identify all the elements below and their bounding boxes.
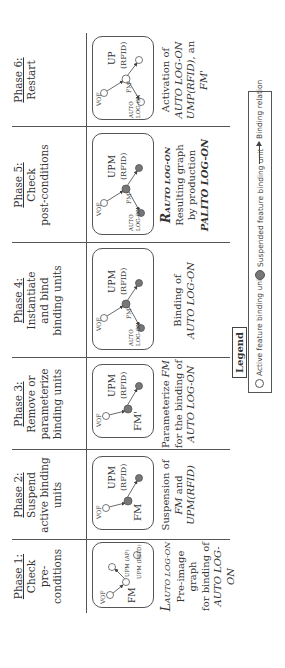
phase-1-desc-line: AUTO LOG-ON [212, 540, 237, 613]
phase-6-desc-ump: UMP(RFID) [185, 60, 196, 120]
phase-4-subtitle: binding units [51, 243, 64, 358]
phase-3-description: Parameterize FM for the binding of AUTO … [160, 358, 198, 450]
svg-text:LOG-ON: LOG-ON [135, 322, 141, 346]
arrow-icon [259, 142, 260, 164]
legend-title: Legend [232, 327, 247, 378]
phase-2-desc-and: and [173, 475, 184, 497]
phase-3-header: Phase 3: Remove or parameterize binding … [12, 358, 64, 450]
phase-1-title: Phase 1: [12, 540, 25, 613]
svg-text:VOF: VOF [95, 318, 102, 332]
phase-3-graph-svg: VOF FM' UPM (RFID) [93, 365, 153, 437]
svg-text:AUTO: AUTO [128, 101, 134, 119]
phase-5-symbol-subscript: AUTO LOG-ON [162, 147, 172, 213]
phase-1-graph-svg: VOF FM UPM (RFID) UPM (AP) [93, 543, 153, 607]
legend-item-binding: Binding relation [255, 80, 264, 164]
phase-3-desc-fm: FM [160, 360, 171, 377]
phase-2-graph: VOF FM UPM (RFID) [92, 456, 154, 530]
svg-text:VOF: VOF [95, 93, 102, 107]
svg-text:VOF: VOF [95, 203, 102, 217]
active-node-icon [255, 379, 264, 388]
suspended-node-icon [136, 165, 143, 172]
phase-2-desc-fm: FM [173, 497, 184, 514]
phase-6-desc-an: , an [185, 41, 196, 60]
active-node-icon [107, 592, 114, 599]
phase-6-header: Phase 6: Restart [12, 33, 38, 127]
phase-2-subtitle: active binding [38, 450, 51, 540]
binding-phases-diagram: Phase 1: Check pre-conditions Phase 2: S… [0, 0, 285, 668]
phase-3-desc-plain: Parameterize [160, 377, 171, 448]
phase-5-graph-svg: VOF FM' UPM (RFID) AUTO LOG-ON [93, 134, 153, 234]
svg-text:UPM: UPM [107, 155, 117, 178]
svg-text:VOF: VOF [95, 506, 102, 520]
phase-4-graph: VOF FM' UPM (RFID) AUTO LOG-ON [92, 248, 154, 350]
phase-5-header: Phase 5: Check post-conditions [12, 127, 51, 243]
phase-6-graph: VOF FM' UP (RFID) AUTO LOG-ON [92, 36, 154, 120]
phase-2-desc-line: Suspension of [160, 450, 173, 540]
svg-text:UP: UP [107, 51, 117, 65]
svg-text:LOG-ON: LOG-ON [135, 207, 141, 231]
svg-text:FM': FM' [125, 307, 132, 319]
svg-text:FM': FM' [132, 411, 143, 431]
suspended-node-icon [136, 475, 143, 482]
suspended-node-icon [136, 383, 143, 390]
phase-1-header: Phase 1: Check pre-conditions [12, 540, 64, 613]
svg-text:VOF: VOF [99, 591, 106, 605]
phase-4-description: Binding of AUTO LOG-ON [172, 243, 197, 358]
phase-2-header: Phase 2: Suspend active binding units [12, 450, 64, 540]
svg-text:AUTO: AUTO [128, 214, 134, 232]
phase-5-desc-line: PALITO LOG-ON [199, 127, 212, 243]
phase-1-graph: VOF FM UPM (RFID) UPM (AP) [92, 542, 154, 608]
suspended-node-icon [136, 280, 143, 287]
svg-text:UPM: UPM [107, 466, 117, 489]
phase-5-description: RAUTO LOG-ON Resulting graph by producti… [160, 127, 211, 243]
legend-item-suspended: Suspended feature binding unit [255, 149, 265, 280]
legend-label: Binding relation [255, 80, 264, 139]
phase-5-graph: VOF FM' UPM (RFID) AUTO LOG-ON [92, 133, 154, 235]
active-node-icon [136, 57, 143, 64]
svg-text:(RFID): (RFID) [119, 42, 128, 69]
legend-label: Active feature binding unit [255, 276, 264, 376]
phase-2-desc-line: UPM(RFID) [185, 450, 198, 540]
phase-4-graph-svg: VOF FM' UPM (RFID) AUTO LOG-ON [93, 249, 153, 349]
phase-6-desc-line: AUTO LOG-ON [173, 33, 186, 127]
legend: Active feature binding unit Suspended fe… [248, 91, 272, 393]
phase-5-desc-line: Resulting graph [174, 127, 187, 243]
svg-text:UPM (RFID): UPM (RFID) [136, 544, 142, 579]
svg-text:(RFID): (RFID) [119, 268, 128, 295]
phase-2-subtitle: Suspend [25, 450, 38, 540]
phase-3-desc-line: AUTO LOG-ON [185, 358, 198, 450]
phase-3-desc-line: for the binding of [173, 358, 186, 450]
phase-6-graph-svg: VOF FM' UP (RFID) AUTO LOG-ON [93, 37, 153, 119]
suspended-node-icon [124, 497, 132, 505]
phase-5-subtitle: post-conditions [38, 127, 51, 243]
phase-5-symbol: R [159, 213, 173, 223]
active-node-icon [103, 505, 110, 512]
phase-6-desc-line: Activation of [160, 33, 173, 127]
suspended-node-icon [124, 405, 132, 413]
phase-6-description: Activation of AUTO LOG-ON UMP(RFID), an … [160, 33, 210, 127]
phase-2-description: Suspension of FM and UPM(RFID) [160, 450, 198, 540]
header-divider [86, 33, 87, 613]
active-node-icon [123, 579, 130, 586]
phase-5-desc-line: by production [186, 127, 199, 243]
phase-1-subtitle: pre-conditions [38, 540, 64, 613]
phase-4-title: Phase 4: [12, 243, 25, 358]
svg-text:FM: FM [127, 588, 137, 603]
svg-text:FM': FM' [125, 192, 132, 204]
phase-2-graph-svg: VOF FM UPM (RFID) [93, 457, 153, 529]
svg-text:FM: FM [132, 504, 143, 521]
suspended-node-icon [255, 270, 265, 280]
phase-4-desc-line: Binding of [172, 243, 185, 358]
phase-5-subtitle: Check [25, 127, 38, 243]
svg-text:UPM: UPM [107, 374, 117, 397]
svg-text:LOG-ON: LOG-ON [135, 94, 141, 118]
phase-1-desc-line: Pre-image graph [175, 540, 200, 613]
phase-3-title: Phase 3: [12, 358, 25, 450]
svg-text:AUTO: AUTO [128, 329, 134, 347]
phase-1-symbol-subscript: AUTO LOG-ON [163, 542, 172, 604]
phase-4-desc-line: AUTO LOG-ON [185, 243, 198, 358]
phase-6-subtitle: Restart [25, 33, 38, 127]
active-node-icon [109, 564, 116, 571]
legend-label: Suspended feature binding unit [256, 149, 265, 267]
phase-5-title: Phase 5: [12, 127, 25, 243]
